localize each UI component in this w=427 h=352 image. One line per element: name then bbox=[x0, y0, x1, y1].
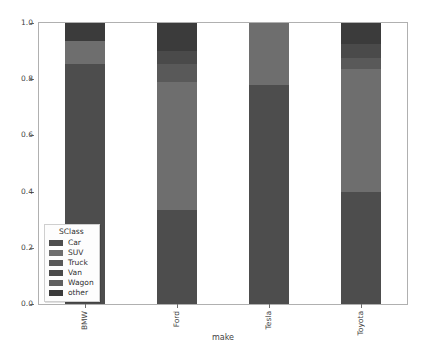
bar-segment[interactable] bbox=[157, 210, 197, 304]
legend-swatch-icon bbox=[49, 260, 63, 266]
y-tick-label: 0.0 bbox=[21, 300, 33, 308]
legend-item-label: Car bbox=[68, 239, 81, 247]
x-tick-label: BMW bbox=[81, 311, 89, 330]
legend-item-label: other bbox=[68, 289, 88, 297]
bar-toyota[interactable] bbox=[341, 23, 381, 304]
y-tick-label: 0.6 bbox=[21, 132, 33, 140]
legend-item-label: Truck bbox=[68, 259, 88, 267]
x-tick-label: Tesla bbox=[265, 311, 273, 330]
legend-item-label: SUV bbox=[68, 249, 83, 257]
bar-segment[interactable] bbox=[157, 51, 197, 64]
bar-ford[interactable] bbox=[157, 23, 197, 304]
chart-figure: 0.00.20.40.60.81.0 BMWFordTeslaToyota ma… bbox=[0, 0, 427, 352]
bar-segment[interactable] bbox=[341, 69, 381, 191]
legend-item[interactable]: Van bbox=[49, 268, 94, 278]
legend-item[interactable]: Car bbox=[49, 238, 94, 248]
bar-segment[interactable] bbox=[65, 41, 105, 63]
legend: SClass CarSUVTruckVanWagonother bbox=[44, 224, 100, 302]
y-tick-label: 0.4 bbox=[21, 188, 33, 196]
legend-item[interactable]: Truck bbox=[49, 258, 94, 268]
legend-item[interactable]: Wagon bbox=[49, 278, 94, 288]
legend-item-label: Van bbox=[68, 269, 82, 277]
bar-segment[interactable] bbox=[341, 23, 381, 44]
x-tick-label: Toyota bbox=[357, 311, 365, 335]
legend-item[interactable]: SUV bbox=[49, 248, 94, 258]
bar-segment[interactable] bbox=[157, 82, 197, 210]
legend-swatch-icon bbox=[49, 290, 63, 296]
x-tick-label: Ford bbox=[173, 311, 181, 327]
y-tick-label: 1.0 bbox=[21, 19, 33, 27]
legend-item-label: Wagon bbox=[68, 279, 94, 287]
legend-swatch-icon bbox=[49, 280, 63, 286]
bar-segment[interactable] bbox=[157, 64, 197, 82]
y-tick-label: 0.2 bbox=[21, 244, 33, 252]
x-tick-mark bbox=[177, 304, 178, 308]
bar-segment[interactable] bbox=[341, 44, 381, 58]
legend-swatch-icon bbox=[49, 270, 63, 276]
bar-segment[interactable] bbox=[341, 192, 381, 304]
legend-title: SClass bbox=[49, 228, 94, 236]
bar-segment[interactable] bbox=[65, 23, 105, 41]
bar-segment[interactable] bbox=[157, 23, 197, 51]
x-tick-mark bbox=[361, 304, 362, 308]
bar-segment[interactable] bbox=[341, 58, 381, 69]
x-tick-mark bbox=[85, 304, 86, 308]
legend-item[interactable]: other bbox=[49, 288, 94, 298]
legend-swatch-icon bbox=[49, 240, 63, 246]
bar-segment[interactable] bbox=[249, 85, 289, 304]
legend-swatch-icon bbox=[49, 250, 63, 256]
x-tick-mark bbox=[269, 304, 270, 308]
x-axis-title: make bbox=[38, 333, 408, 342]
y-tick-label: 0.8 bbox=[21, 75, 33, 83]
bar-segment[interactable] bbox=[249, 23, 289, 85]
legend-items: CarSUVTruckVanWagonother bbox=[49, 238, 94, 298]
bar-tesla[interactable] bbox=[249, 23, 289, 304]
